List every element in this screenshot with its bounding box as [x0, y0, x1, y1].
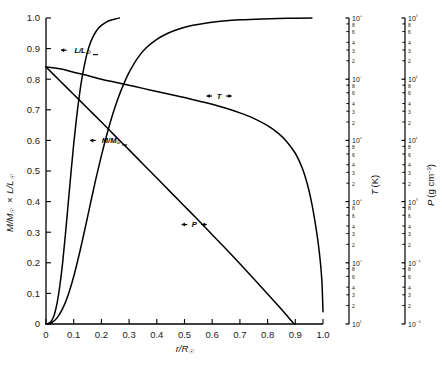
log-minor-label: 4 — [352, 101, 355, 107]
log-minor-label: 4 — [408, 101, 411, 107]
log-minor-label: 6 — [352, 213, 355, 219]
label-arrowhead-left — [61, 48, 64, 52]
log-minor-label: 8 — [408, 22, 411, 28]
chart-svg: 00.10.20.30.40.50.60.70.80.91.0 00.10.20… — [0, 0, 442, 370]
x-tick-label: 0.8 — [261, 329, 274, 340]
log-minor-label: 8 — [352, 266, 355, 272]
y-tick-label: 0.9 — [27, 43, 40, 54]
x-axis-title: r/R☉ — [176, 343, 196, 355]
label-arrowhead-left — [90, 138, 93, 142]
log-minor-label: 6 — [408, 213, 411, 219]
log-minor-label: 8 — [352, 83, 355, 89]
curve-label-ll: L/L☉ — [61, 46, 98, 55]
pressure-axis-title: P(g cm−3) — [425, 164, 436, 206]
log-minor-label: 2 — [408, 181, 411, 187]
x-axis-ticks: 00.10.20.30.40.50.60.70.80.91.0 — [43, 319, 329, 340]
log-minor-label: 3 — [408, 48, 411, 54]
x-tick-label: 0 — [43, 329, 48, 340]
log-minor-label: 3 — [352, 109, 355, 115]
log-minor-label: 4 — [352, 162, 355, 168]
temperature-axis: 10⁸8643210⁷8643210⁶8643210⁵8643210⁴86432… — [346, 13, 362, 328]
curve-label-p: P — [182, 220, 207, 229]
y-tick-label: 0 — [35, 318, 40, 329]
pressure-axis-title-text: P(g cm−3) — [425, 164, 436, 206]
svg-text:M/M☉: M/M☉ — [102, 136, 122, 145]
label-arrowhead-right — [228, 94, 231, 98]
x-tick-label: 0.2 — [95, 329, 108, 340]
log-minor-label: 8 — [408, 205, 411, 211]
log-minor-label: 2 — [408, 120, 411, 126]
log-minor-label: 6 — [408, 90, 411, 96]
x-tick-label: 0.4 — [150, 329, 163, 340]
log-minor-label: 3 — [408, 170, 411, 176]
temperature-axis-title-text: T(K) — [369, 175, 380, 195]
log-minor-label: 4 — [352, 40, 355, 46]
log-minor-label: 2 — [352, 303, 355, 309]
y-axis-title: M/M☉ × L/L☉ — [4, 173, 16, 232]
log-minor-label: 3 — [408, 231, 411, 237]
log-minor-label: 6 — [408, 274, 411, 280]
x-tick-label: 0.9 — [289, 329, 302, 340]
log-minor-label: 2 — [408, 242, 411, 248]
curve-mm — [46, 18, 312, 324]
log-minor-label: 3 — [352, 48, 355, 54]
log-minor-label: 8 — [352, 144, 355, 150]
log-minor-label: 8 — [408, 266, 411, 272]
curve-label-t: T — [207, 92, 232, 101]
x-tick-label: 0.3 — [122, 329, 135, 340]
curve-label-mm: M/M☉ — [90, 136, 127, 145]
log-minor-label: 4 — [408, 162, 411, 168]
log-minor-label: 2 — [352, 120, 355, 126]
curve-p — [46, 67, 295, 324]
log-decade-label: 10⁻² — [408, 319, 421, 328]
x-tick-label: 0.6 — [206, 329, 219, 340]
curve-t — [46, 67, 323, 312]
x-tick-label: 0.7 — [233, 329, 246, 340]
temperature-axis-title: T(K) — [369, 175, 380, 195]
y-tick-label: 0.7 — [27, 104, 40, 115]
pressure-density-axis: 10³8643210²8643210¹8643210⁰8643210⁻¹8643… — [402, 13, 421, 328]
curve-inline-labels: L/L☉M/M☉TP — [61, 46, 232, 229]
y-tick-label: 0.8 — [27, 74, 40, 85]
y-tick-label: 0.6 — [27, 135, 40, 146]
log-minor-label: 8 — [352, 205, 355, 211]
label-arrowhead-right — [203, 223, 206, 227]
log-minor-label: 2 — [408, 58, 411, 64]
stellar-structure-figure: 00.10.20.30.40.50.60.70.80.91.0 00.10.20… — [0, 0, 442, 370]
label-arrowhead-left — [182, 223, 185, 227]
y-tick-label: 0.3 — [27, 227, 40, 238]
log-minor-label: 4 — [408, 224, 411, 230]
plot-frame — [46, 18, 323, 324]
log-minor-label: 3 — [352, 231, 355, 237]
svg-text:T: T — [217, 92, 223, 101]
log-minor-label: 2 — [352, 58, 355, 64]
log-minor-label: 6 — [408, 152, 411, 158]
x-tick-label: 0.1 — [67, 329, 80, 340]
label-arrowhead-left — [207, 94, 210, 98]
log-minor-label: 8 — [408, 83, 411, 89]
log-minor-label: 8 — [408, 144, 411, 150]
log-minor-label: 8 — [352, 22, 355, 28]
log-minor-label: 3 — [352, 170, 355, 176]
log-decade-label: 10³ — [352, 319, 362, 328]
log-minor-label: 4 — [408, 40, 411, 46]
y-axis-ticks: 00.10.20.30.40.50.60.70.80.91.0 — [27, 12, 51, 329]
log-minor-label: 3 — [408, 292, 411, 298]
log-minor-label: 4 — [352, 224, 355, 230]
log-minor-label: 6 — [352, 152, 355, 158]
log-minor-label: 3 — [408, 109, 411, 115]
y-tick-label: 0.4 — [27, 196, 40, 207]
svg-text:P: P — [192, 220, 198, 229]
y-axis-title-text: M/M☉ × L/L☉ — [4, 173, 16, 232]
log-minor-label: 2 — [352, 242, 355, 248]
x-tick-label: 1.0 — [316, 329, 329, 340]
log-minor-label: 4 — [408, 285, 411, 291]
log-minor-label: 6 — [352, 90, 355, 96]
y-tick-label: 0.2 — [27, 257, 40, 268]
data-curves — [46, 18, 323, 324]
x-axis-title-text: r/R☉ — [176, 343, 196, 355]
log-minor-label: 3 — [352, 292, 355, 298]
log-minor-label: 4 — [352, 285, 355, 291]
y-tick-label: 0.1 — [27, 288, 40, 299]
y-tick-label: 1.0 — [27, 12, 40, 23]
